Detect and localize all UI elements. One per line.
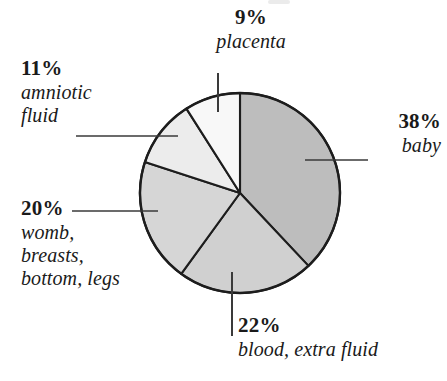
slice-percent-amniotic-fluid: 11% [21,57,92,81]
slice-name-womb-line1: womb, [21,221,120,244]
slice-percent-blood: 22% [238,314,378,338]
slice-name-blood: blood, extra fluid [238,338,378,361]
slice-name-placenta: placenta [186,30,316,53]
slice-label-blood: 22% blood, extra fluid [238,314,378,361]
slice-percent-womb: 20% [21,197,120,221]
slice-name-womb-line3: bottom, legs [21,267,120,290]
pie-chart-figure: 9% placenta 11% amniotic fluid 20% womb,… [0,0,447,381]
slice-percent-baby: 38% [398,110,441,134]
slice-percent-placenta: 9% [186,6,316,30]
slice-name-amniotic-fluid-line1: amniotic [21,81,92,104]
slice-name-amniotic-fluid-line2: fluid [21,104,92,127]
slice-label-placenta: 9% placenta [186,6,316,53]
slice-label-baby: 38% baby [398,110,441,157]
slice-label-amniotic-fluid: 11% amniotic fluid [21,57,92,127]
slice-label-womb: 20% womb, breasts, bottom, legs [21,197,120,289]
slice-name-womb-line2: breasts, [21,244,120,267]
slice-name-baby: baby [398,134,441,157]
